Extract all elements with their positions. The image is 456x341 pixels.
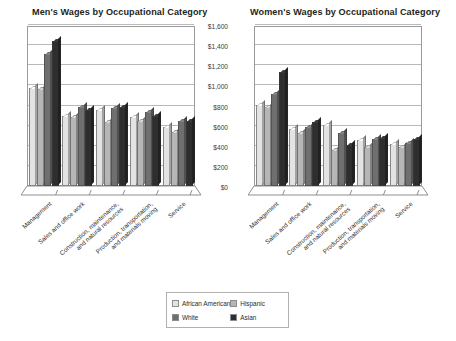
legend-label: Hispanic (240, 300, 265, 307)
y-axis-tick-label: $800 (192, 103, 228, 110)
legend-swatch-icon (230, 300, 237, 307)
bar (145, 112, 152, 186)
bar (264, 107, 271, 186)
gridline (28, 24, 194, 25)
bar-group (389, 27, 423, 186)
bar (178, 121, 185, 186)
bar (405, 143, 412, 186)
bar (163, 127, 170, 186)
legend-label: White (182, 314, 198, 321)
y-axis-tick-label: $400 (192, 143, 228, 150)
bar-side-face (385, 133, 388, 185)
legend-swatch-icon (172, 314, 179, 321)
legend-item[interactable]: White (172, 314, 230, 321)
bar (312, 122, 319, 186)
bar-group (95, 27, 129, 186)
y-axis-tick-label: $1,400 (192, 43, 228, 50)
legend-item[interactable]: African American (172, 300, 230, 307)
gridline (255, 24, 421, 25)
bar-group (28, 27, 62, 186)
bar (379, 138, 386, 186)
bar (364, 147, 371, 186)
bar-groups-men (28, 27, 194, 186)
bar (111, 108, 118, 186)
bar (297, 133, 304, 186)
plot-area-women (254, 26, 422, 187)
bar (52, 41, 59, 186)
bar (398, 147, 405, 186)
y-axis-tick-label: $200 (192, 163, 228, 170)
y-axis-tick-label: $0 (192, 184, 228, 191)
bar-side-face (125, 102, 128, 185)
legend-swatch-icon (230, 314, 237, 321)
bar-side-face (318, 117, 321, 185)
legend-item[interactable]: Asian (230, 314, 283, 321)
bar (323, 125, 330, 186)
bar (289, 129, 296, 186)
bar-side-face (91, 105, 94, 185)
bar (37, 89, 44, 186)
bar (346, 145, 353, 186)
bar (78, 107, 85, 186)
bar (256, 105, 263, 187)
bar (279, 72, 286, 186)
legend-label: African American (182, 300, 230, 307)
y-axis-tick-label: $1,200 (192, 63, 228, 70)
y-axis-tick-label: $1,000 (192, 83, 228, 90)
bar (62, 116, 69, 186)
bar-side-face (285, 67, 288, 185)
bar (152, 116, 159, 186)
bar (390, 144, 397, 186)
bar (305, 127, 312, 186)
bar-group (356, 27, 390, 186)
bar (357, 140, 364, 186)
bar (44, 54, 51, 186)
bar (171, 132, 178, 186)
category-labels-men: ManagementSales and office workConstruct… (0, 188, 228, 268)
bar (85, 110, 92, 186)
bar-groups-women (255, 27, 421, 186)
wage-comparison-figure: Men's Wages by Occupational Category Man… (0, 0, 456, 341)
bar (70, 117, 77, 186)
category-labels-women: ManagementSales and office workConstruct… (228, 188, 456, 268)
bar (331, 150, 338, 186)
y-axis-tick-label: $600 (192, 123, 228, 130)
legend-label: Asian (240, 314, 256, 321)
bar (372, 139, 379, 186)
bar (338, 133, 345, 186)
bar (271, 94, 278, 186)
chart-panel-women: Women's Wages by Occupational Category M… (228, 0, 456, 270)
chart-title-men: Men's Wages by Occupational Category (0, 7, 260, 17)
legend-item[interactable]: Hispanic (230, 300, 283, 307)
bar (104, 122, 111, 186)
bar-group (162, 27, 196, 186)
bar-side-face (58, 36, 61, 185)
plot-area-men (27, 26, 195, 187)
bar-group (289, 27, 323, 186)
bar-group (129, 27, 163, 186)
chart-title-women: Women's Wages by Occupational Category (228, 7, 456, 17)
bar-side-face (158, 111, 161, 185)
bar-group (62, 27, 96, 186)
bar (119, 107, 126, 186)
bar-group (255, 27, 289, 186)
bar-side-face (419, 134, 422, 185)
bar (413, 139, 420, 186)
legend-swatch-icon (172, 300, 179, 307)
y-axis-tick-labels: $0$200$400$600$800$1,000$1,200$1,400$1,6… (192, 26, 228, 187)
bar-group (322, 27, 356, 186)
y-axis-tick-label: $1,600 (192, 23, 228, 30)
bar-side-face (352, 140, 355, 185)
chart-legend: African AmericanHispanicWhiteAsian (166, 292, 289, 328)
bar (130, 117, 137, 186)
bar (137, 121, 144, 186)
bar (96, 110, 103, 186)
bar (29, 88, 36, 186)
